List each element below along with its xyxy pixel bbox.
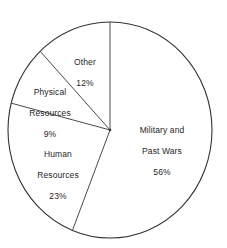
pie-center-vertex [109,129,112,132]
pie-chart: Military and Past Wars 56% Human Resourc… [0,0,227,248]
pie-chart-svg [0,0,227,248]
